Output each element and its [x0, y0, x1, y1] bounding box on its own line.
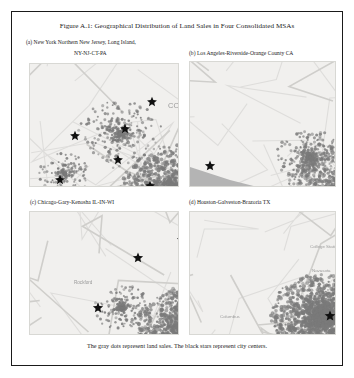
- map-chicago-canvas: [30, 212, 179, 335]
- map-houston-canvas: [190, 212, 336, 335]
- panel-a-label-line2: NY-NJ-CT-PA: [74, 50, 107, 56]
- map-new-york-canvas: [30, 64, 179, 187]
- panel-b-label: (b) Los Angeles-Riverside-Orange County …: [189, 50, 293, 56]
- map-chicago: [29, 211, 179, 335]
- panel-d-label: (d) Houston-Galveston-Brazoria TX: [189, 199, 270, 205]
- panel-a-label-line1: (a) New York Northern New Jersey, Long I…: [26, 39, 136, 45]
- map-los-angeles: [189, 61, 336, 187]
- panel-c-label: (c) Chicago-Gary-Kenosha IL-IN-WI: [30, 199, 114, 205]
- figure-frame: Figure A.1: Geographical Distribution of…: [11, 11, 343, 366]
- figure-caption: The gray dots represent land sales. The …: [12, 342, 342, 349]
- figure-title: Figure A.1: Geographical Distribution of…: [12, 22, 342, 30]
- map-houston: [189, 211, 336, 335]
- map-los-angeles-canvas: [190, 62, 336, 187]
- map-new-york: [29, 63, 179, 187]
